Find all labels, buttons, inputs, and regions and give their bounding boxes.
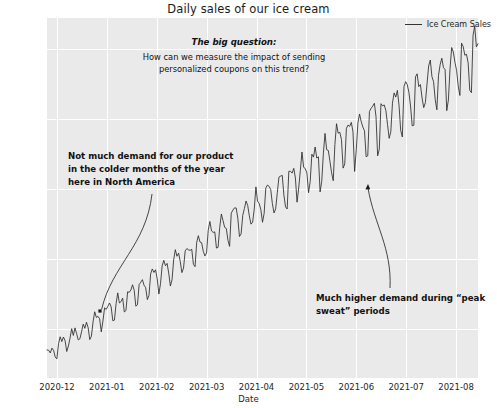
gridline-horizontal — [47, 259, 478, 260]
x-tick-label: 2021-08 — [426, 382, 486, 392]
chart-title: Daily sales of our ice cream — [0, 2, 497, 16]
annotation-peak-sweat: Much higher demand during “peak sweat” p… — [316, 292, 486, 318]
gridline-vertical — [356, 18, 357, 378]
gridline-vertical — [57, 18, 58, 378]
gridline-vertical — [406, 18, 407, 378]
gridline-horizontal — [47, 189, 478, 190]
gridline-vertical — [107, 18, 108, 378]
gridline-vertical — [456, 18, 457, 378]
gridline-horizontal — [47, 329, 478, 330]
chart-figure: Daily sales of our ice cream 10000020000… — [0, 0, 497, 408]
annotation-big-question-body: How can we measure the impact of sending… — [118, 51, 350, 76]
annotation-cold-months: Not much demand for our product in the c… — [68, 150, 243, 189]
annotation-big-question-head: The big question: — [118, 36, 350, 49]
annotation-big-question: The big question: How can we measure the… — [118, 36, 350, 76]
legend: Ice Cream Sales — [405, 20, 491, 29]
legend-line-swatch — [405, 24, 422, 25]
legend-label-ice-cream-sales: Ice Cream Sales — [427, 20, 491, 29]
x-axis-label: Date — [0, 394, 497, 404]
gridline-horizontal — [47, 119, 478, 120]
